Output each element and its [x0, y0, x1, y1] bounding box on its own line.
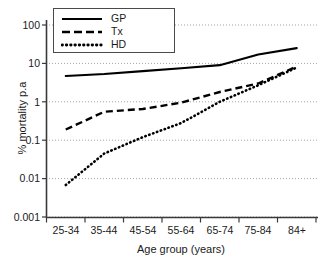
legend: GP Tx HD	[53, 8, 175, 53]
legend-label-hd: HD	[111, 39, 126, 50]
y-tick-label-100: 100	[0, 19, 40, 31]
y-tick-label-0.001: 0.001	[0, 211, 40, 223]
legend-item-tx: Tx	[61, 25, 123, 38]
x-axis-title: Age group (years)	[46, 243, 316, 255]
y-tick-label-0.01: 0.01	[0, 172, 40, 184]
legend-swatch-solid-icon	[61, 14, 103, 24]
series-line-tx	[66, 67, 297, 130]
series-line-hd	[66, 68, 297, 185]
legend-label-gp: GP	[111, 13, 126, 24]
legend-swatch-dotted-icon	[61, 40, 103, 50]
legend-label-tx: Tx	[111, 26, 123, 37]
x-tick-label-84plus: 84+	[274, 224, 320, 236]
legend-item-gp: GP	[61, 12, 126, 25]
legend-item-hd: HD	[61, 38, 126, 51]
y-axis-title: % mortality p.a	[16, 63, 28, 173]
legend-swatch-dashed-icon	[61, 27, 103, 37]
data-series	[66, 48, 297, 185]
mortality-line-chart: GP Tx HD 100 10 1 0.1 0.01 0.001 25-34 3…	[0, 0, 323, 264]
